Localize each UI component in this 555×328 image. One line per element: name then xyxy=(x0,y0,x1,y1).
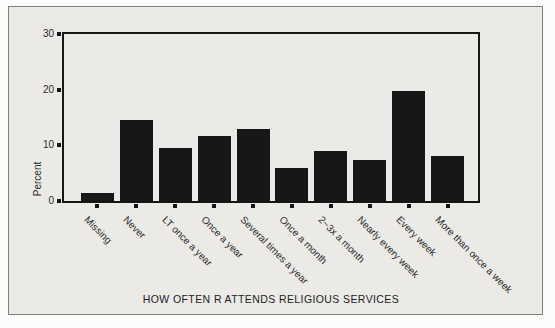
y-tick-mark xyxy=(57,143,61,147)
x-tick-mark xyxy=(329,204,333,208)
bar xyxy=(275,168,308,201)
plot-area xyxy=(62,32,480,203)
y-tick-label: 10 xyxy=(23,139,54,151)
x-tick-mark xyxy=(173,204,177,208)
x-tick-mark xyxy=(95,204,99,208)
bar xyxy=(353,160,386,201)
x-tick-mark xyxy=(407,204,411,208)
x-tick-label: Missing xyxy=(83,214,115,246)
bar xyxy=(81,193,114,201)
chart-title: HOW OFTEN R ATTENDS RELIGIOUS SERVICES xyxy=(64,293,478,305)
x-tick-mark xyxy=(134,204,138,208)
bar xyxy=(392,91,425,201)
bar xyxy=(431,156,464,201)
bar xyxy=(120,120,153,201)
bar xyxy=(159,148,192,201)
x-tick-label: Never xyxy=(122,214,149,241)
figure-panel: Percent 0102030MissingNeverLT once a yea… xyxy=(8,6,543,315)
y-tick-label: 20 xyxy=(23,84,54,96)
scanned-figure-page: Percent 0102030MissingNeverLT once a yea… xyxy=(0,0,555,328)
x-tick-label: Several times a year xyxy=(238,214,310,286)
y-tick-label: 0 xyxy=(23,195,54,207)
y-tick-mark xyxy=(57,88,61,92)
x-tick-mark xyxy=(446,204,450,208)
x-tick-mark xyxy=(251,204,255,208)
bar xyxy=(237,129,270,201)
bar xyxy=(314,151,347,201)
x-tick-label: More than once a week xyxy=(433,214,514,295)
x-tick-mark xyxy=(290,204,294,208)
y-tick-label: 30 xyxy=(23,28,54,40)
x-tick-mark xyxy=(212,204,216,208)
y-tick-mark xyxy=(57,199,61,203)
y-tick-mark xyxy=(57,32,61,36)
x-tick-mark xyxy=(368,204,372,208)
bar xyxy=(198,136,231,201)
